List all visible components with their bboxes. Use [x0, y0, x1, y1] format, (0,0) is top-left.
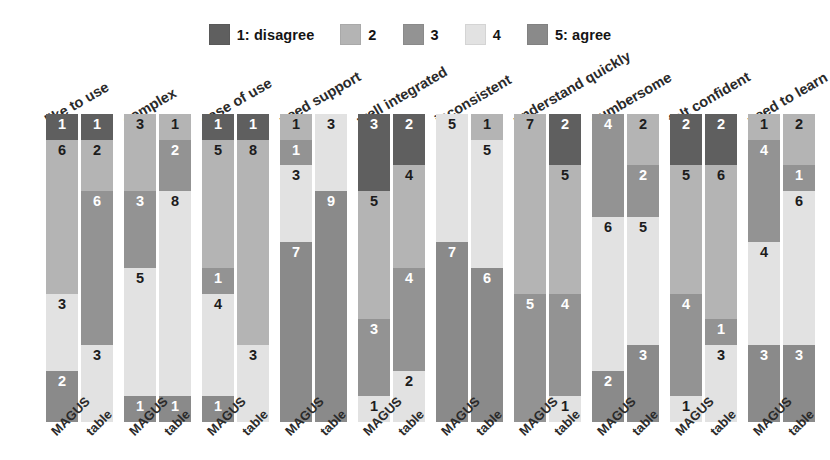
bar-group-well-integrated: well integrated35312442MAGUStable — [358, 64, 425, 460]
bar-table[interactable]: 2613 — [705, 114, 737, 422]
bar-segment-table-2[interactable]: 4 — [393, 165, 425, 268]
segment-value-label: 4 — [682, 297, 690, 312]
bar-segment-table-2[interactable]: 2 — [783, 114, 815, 165]
segment-value-label: 6 — [795, 194, 803, 209]
bar-magus[interactable]: 1443 — [748, 114, 780, 422]
bar-segment-magus-1[interactable]: 1 — [202, 114, 234, 140]
bar-segment-magus-2[interactable]: 3 — [124, 114, 156, 191]
segment-value-label: 5 — [682, 168, 690, 183]
bar-segment-magus-3[interactable]: 1 — [202, 268, 234, 294]
bar-segment-magus-2[interactable]: 5 — [202, 140, 234, 268]
bars-wrapper: 33511281 — [124, 114, 191, 422]
bar-segment-magus-4[interactable]: 5 — [436, 114, 468, 242]
segment-value-label: 2 — [93, 143, 101, 158]
bar-segment-table-3[interactable]: 6 — [81, 191, 113, 345]
bar-segment-magus-2[interactable]: 7 — [514, 114, 546, 294]
x-axis-tick-group: MAGUStable — [280, 426, 347, 460]
bar-segment-magus-3[interactable]: 3 — [124, 191, 156, 268]
legend-item-3[interactable]: 3 — [403, 24, 439, 45]
bar-magus[interactable]: 2541 — [670, 114, 702, 422]
chart-plot-area: like to use16321263MAGUStablecomplex3351… — [0, 64, 820, 460]
bar-segment-magus-3[interactable]: 4 — [748, 140, 780, 243]
bar-segment-magus-1[interactable]: 1 — [46, 114, 78, 140]
bar-magus[interactable]: 1137 — [280, 114, 312, 422]
legend-label-5: 5: agree — [555, 27, 611, 43]
bar-segment-magus-1[interactable]: 2 — [670, 114, 702, 165]
bar-segment-table-4[interactable]: 8 — [159, 191, 191, 396]
bars-wrapper: 113739 — [280, 114, 347, 422]
bar-magus[interactable]: 3531 — [358, 114, 390, 422]
bar-magus[interactable]: 57 — [436, 114, 468, 422]
bar-segment-table-1[interactable]: 2 — [393, 114, 425, 165]
bar-segment-magus-3[interactable]: 4 — [670, 294, 702, 397]
bar-segment-table-3[interactable]: 2 — [159, 140, 191, 191]
bar-segment-table-1[interactable]: 2 — [705, 114, 737, 165]
bar-table[interactable]: 39 — [315, 114, 347, 422]
segment-value-label: 1 — [292, 117, 300, 132]
legend-swatch-4 — [465, 24, 486, 45]
bar-segment-table-2[interactable]: 2 — [627, 114, 659, 165]
bar-segment-magus-4[interactable]: 3 — [280, 165, 312, 242]
bar-segment-magus-3[interactable]: 4 — [592, 114, 624, 217]
bar-segment-table-1[interactable]: 1 — [81, 114, 113, 140]
legend-swatch-1 — [209, 24, 230, 45]
legend-item-2[interactable]: 2 — [340, 24, 376, 45]
bar-segment-magus-4[interactable]: 4 — [748, 242, 780, 345]
x-axis-tick-magus: MAGUS — [280, 426, 312, 460]
segment-value-label: 3 — [249, 348, 257, 363]
bar-segment-table-2[interactable]: 1 — [471, 114, 503, 140]
legend-item-1[interactable]: 1: disagree — [209, 24, 315, 45]
bar-segment-magus-4[interactable]: 5 — [124, 268, 156, 396]
bar-segment-table-1[interactable]: 2 — [549, 114, 581, 165]
bar-segment-magus-5[interactable]: 7 — [280, 242, 312, 422]
bar-table[interactable]: 2442 — [393, 114, 425, 422]
bar-segment-magus-2[interactable]: 1 — [280, 114, 312, 140]
bar-segment-magus-2[interactable]: 1 — [748, 114, 780, 140]
legend-label-4: 4 — [493, 27, 501, 43]
bar-magus[interactable]: 462 — [592, 114, 624, 422]
bar-table[interactable]: 2163 — [783, 114, 815, 422]
bar-segment-magus-3[interactable]: 1 — [280, 140, 312, 166]
bar-segment-table-2[interactable]: 6 — [705, 165, 737, 319]
bar-segment-table-3[interactable]: 1 — [705, 319, 737, 345]
bar-segment-magus-4[interactable]: 3 — [46, 294, 78, 371]
bar-segment-magus-4[interactable]: 6 — [592, 217, 624, 371]
bar-segment-table-4[interactable]: 3 — [315, 114, 347, 191]
bar-segment-magus-2[interactable]: 5 — [358, 191, 390, 319]
bar-table[interactable]: 156 — [471, 114, 503, 422]
bar-segment-table-5[interactable]: 9 — [315, 191, 347, 422]
bar-segment-table-4[interactable]: 5 — [627, 217, 659, 345]
bar-segment-magus-1[interactable]: 3 — [358, 114, 390, 191]
bar-segment-magus-2[interactable]: 5 — [670, 165, 702, 293]
bar-table[interactable]: 2253 — [627, 114, 659, 422]
bar-magus[interactable]: 15141 — [202, 114, 234, 422]
bar-segment-magus-4[interactable]: 4 — [202, 294, 234, 397]
bar-segment-table-1[interactable]: 1 — [237, 114, 269, 140]
bar-segment-magus-3[interactable]: 3 — [358, 319, 390, 396]
bar-magus[interactable]: 3351 — [124, 114, 156, 422]
x-axis-tick-table: table — [237, 426, 269, 460]
bar-table[interactable]: 1263 — [81, 114, 113, 422]
bar-segment-table-3[interactable]: 2 — [627, 165, 659, 216]
legend-item-5[interactable]: 5: agree — [527, 24, 611, 45]
bar-segment-magus-5[interactable]: 7 — [436, 242, 468, 422]
bar-segment-table-3[interactable]: 4 — [549, 294, 581, 397]
bar-segment-table-2[interactable]: 1 — [159, 114, 191, 140]
bar-segment-table-4[interactable]: 6 — [783, 191, 815, 345]
segment-value-label: 5 — [214, 143, 222, 158]
bar-table[interactable]: 1281 — [159, 114, 191, 422]
bar-segment-table-3[interactable]: 1 — [783, 165, 815, 191]
bar-segment-table-4[interactable]: 5 — [471, 140, 503, 268]
x-axis-tick-group: MAGUStable — [436, 426, 503, 460]
bar-segment-magus-2[interactable]: 6 — [46, 140, 78, 294]
bar-table[interactable]: 183 — [237, 114, 269, 422]
bar-segment-table-2[interactable]: 8 — [237, 140, 269, 345]
bar-segment-table-2[interactable]: 5 — [549, 165, 581, 293]
bar-table[interactable]: 2541 — [549, 114, 581, 422]
bar-magus[interactable]: 75 — [514, 114, 546, 422]
bar-segment-table-2[interactable]: 2 — [81, 140, 113, 191]
bar-magus[interactable]: 1632 — [46, 114, 78, 422]
legend-item-4[interactable]: 4 — [465, 24, 501, 45]
segment-value-label: 7 — [292, 245, 300, 260]
bar-segment-table-3[interactable]: 4 — [393, 268, 425, 371]
